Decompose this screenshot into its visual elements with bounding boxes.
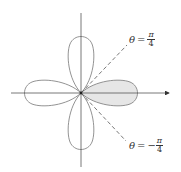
label-theta-minus-pi-over-4: θ = − π 4 bbox=[129, 137, 163, 154]
minus-sign: − bbox=[147, 140, 155, 151]
theta-symbol: θ bbox=[129, 140, 135, 151]
theta-symbol: θ bbox=[129, 34, 135, 45]
equals-sign: = bbox=[137, 34, 145, 45]
label-theta-pi-over-4: θ = π 4 bbox=[129, 31, 155, 48]
origin-dot bbox=[80, 92, 83, 95]
fraction: π 4 bbox=[147, 31, 154, 48]
denominator: 4 bbox=[149, 40, 154, 48]
equals-sign: = bbox=[137, 140, 145, 151]
fraction: π 4 bbox=[156, 137, 163, 154]
denominator: 4 bbox=[157, 146, 162, 154]
